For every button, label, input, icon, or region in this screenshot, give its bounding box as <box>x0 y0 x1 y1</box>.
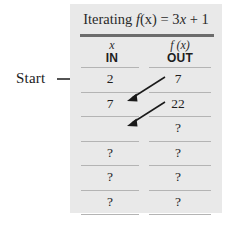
title-equals: = 3 <box>157 11 180 27</box>
row-rule-out <box>149 190 211 191</box>
table-row: 2 7 <box>70 67 222 92</box>
title-constant: + 1 <box>186 11 209 27</box>
cell-out: ? <box>149 120 207 136</box>
panel-title: Iterating f(x) = 3x + 1 <box>70 11 222 28</box>
start-label: Start <box>16 70 45 87</box>
cell-in: ? <box>81 194 139 210</box>
table-row-bottom-rule <box>70 214 222 228</box>
row-rule-in <box>81 141 139 142</box>
header-in-variable: x <box>82 39 142 52</box>
table-row: ? ? <box>70 190 222 215</box>
row-rule-out <box>149 141 211 142</box>
title-argument: (x) <box>140 11 157 27</box>
cell-out: ? <box>149 145 207 161</box>
cell-in: 7 <box>81 96 139 112</box>
header-out-variable: f (x) <box>150 39 210 52</box>
title-prefix: Iterating <box>83 11 136 27</box>
cell-out: 22 <box>149 96 207 112</box>
row-rule-in <box>81 214 139 215</box>
table-row: ? ? <box>70 141 222 166</box>
row-rule-in <box>81 165 139 166</box>
header-in-word: IN <box>82 52 142 65</box>
row-rule-out <box>149 165 211 166</box>
iteration-table-figure: Start Iterating f(x) = 3x + 1 x IN f (x)… <box>0 0 236 228</box>
cell-in: ? <box>81 145 139 161</box>
row-rule-in <box>81 190 139 191</box>
table-panel: Iterating f(x) = 3x + 1 x IN f (x) OUT 2… <box>70 4 222 213</box>
row-rule-out <box>149 92 211 93</box>
row-rule-out <box>149 67 211 68</box>
table-row: ? ? <box>70 165 222 190</box>
header-out-column: f (x) OUT <box>150 39 210 64</box>
cell-out: ? <box>149 169 207 185</box>
cell-out: 7 <box>149 71 207 87</box>
table-rows: 2 7 7 22 ? ? ? <box>70 67 222 228</box>
column-headers: x IN f (x) OUT <box>70 39 222 67</box>
cell-out: ? <box>149 194 207 210</box>
row-rule-in <box>81 116 139 117</box>
header-in-column: x IN <box>82 39 142 64</box>
cell-in: 2 <box>81 71 139 87</box>
row-rule-in <box>81 92 139 93</box>
table-row: ? <box>70 116 222 141</box>
table-row: 7 22 <box>70 92 222 117</box>
row-rule-in <box>81 67 139 68</box>
header-out-word: OUT <box>150 52 210 65</box>
cell-in: ? <box>81 169 139 185</box>
row-rule-out <box>149 116 211 117</box>
row-rule-out <box>149 214 211 215</box>
title-divider <box>80 34 214 37</box>
